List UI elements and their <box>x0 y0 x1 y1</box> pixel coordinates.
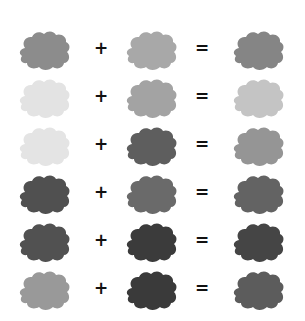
plus-sign: + <box>94 86 108 106</box>
paint-blob-b <box>124 124 180 168</box>
paint-blob-result <box>231 28 287 72</box>
paint-blob-result <box>231 124 287 168</box>
paint-blob-b <box>124 76 180 120</box>
paint-blob-b <box>124 220 180 264</box>
paint-blob-result <box>231 268 287 312</box>
cloud-blob-icon <box>231 124 287 168</box>
paint-blob-b <box>124 172 180 216</box>
cloud-blob-icon <box>124 220 180 264</box>
cloud-blob-icon <box>17 220 73 264</box>
cloud-blob-icon <box>17 76 73 120</box>
paint-blob-result <box>231 172 287 216</box>
cloud-blob-icon <box>17 28 73 72</box>
cloud-blob-icon <box>231 220 287 264</box>
paint-blob-b <box>124 268 180 312</box>
equals-sign: = <box>195 182 209 202</box>
equation-row: + = <box>0 124 305 172</box>
cloud-blob-icon <box>231 172 287 216</box>
equation-row: + = <box>0 220 305 268</box>
cloud-blob-icon <box>124 124 180 168</box>
cloud-blob-icon <box>231 28 287 72</box>
equals-sign: = <box>195 86 209 106</box>
equation-row: + = <box>0 268 305 316</box>
paint-blob-result <box>231 76 287 120</box>
plus-sign: + <box>94 182 108 202</box>
paint-blob-result <box>231 220 287 264</box>
equals-sign: = <box>195 38 209 58</box>
plus-sign: + <box>94 278 108 298</box>
paint-blob-a <box>17 76 73 120</box>
equals-sign: = <box>195 278 209 298</box>
paint-blob-a <box>17 268 73 312</box>
cloud-blob-icon <box>17 268 73 312</box>
cloud-blob-icon <box>124 28 180 72</box>
plus-sign: + <box>94 38 108 58</box>
cloud-blob-icon <box>17 172 73 216</box>
cloud-blob-icon <box>231 76 287 120</box>
paint-blob-a <box>17 28 73 72</box>
equation-row: + = <box>0 172 305 220</box>
equation-row: + = <box>0 76 305 124</box>
paint-blob-a <box>17 220 73 264</box>
paint-blob-a <box>17 172 73 216</box>
equals-sign: = <box>195 230 209 250</box>
equation-row: + = <box>0 28 305 76</box>
plus-sign: + <box>94 134 108 154</box>
plus-sign: + <box>94 230 108 250</box>
paint-blob-a <box>17 124 73 168</box>
cloud-blob-icon <box>124 76 180 120</box>
paint-blob-b <box>124 28 180 72</box>
cloud-blob-icon <box>17 124 73 168</box>
equals-sign: = <box>195 134 209 154</box>
cloud-blob-icon <box>124 172 180 216</box>
cloud-blob-icon <box>231 268 287 312</box>
cloud-blob-icon <box>124 268 180 312</box>
